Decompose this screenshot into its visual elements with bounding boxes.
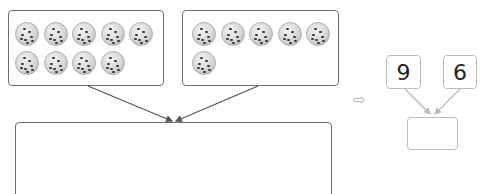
bond-part-2: 6 xyxy=(443,55,477,89)
bond-right-arrow xyxy=(435,89,460,114)
bond-whole-input[interactable] xyxy=(407,117,458,150)
left-arrow xyxy=(88,86,172,121)
right-arrow xyxy=(176,86,258,121)
combine-arrows xyxy=(0,0,486,194)
implies-arrow-icon: ⇨ xyxy=(353,93,366,108)
bond-left-arrow xyxy=(405,89,430,114)
bond-part-1: 9 xyxy=(386,55,421,89)
